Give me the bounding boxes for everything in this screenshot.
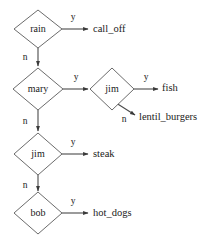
edge-label-jim1-no: n xyxy=(23,180,28,190)
leaf-node-hot-dogs: hot_dogs xyxy=(93,207,132,218)
edge-jim1-yes: y xyxy=(62,137,88,154)
decision-node-rain[interactable]: rain xyxy=(14,10,62,48)
edge-bob-yes: y xyxy=(62,196,88,213)
edge-label-rain-yes: y xyxy=(71,12,76,22)
decision-node-jim[interactable]: jim xyxy=(14,133,62,175)
decision-node-label-jim-mary-branch: jim xyxy=(104,83,119,94)
leaf-node-call-off: call_off xyxy=(93,23,126,34)
decision-node-label-mary: mary xyxy=(28,83,49,94)
decision-node-bob[interactable]: bob xyxy=(14,192,62,234)
edge-label-bob-yes: y xyxy=(71,196,76,206)
edge-rain-yes: y xyxy=(62,12,88,29)
edge-rain-no: n xyxy=(23,48,38,66)
edge-label-jim2-yes: y xyxy=(144,72,149,82)
edge-label-jim1-yes: y xyxy=(71,137,76,147)
edge-jim1-no: n xyxy=(23,175,38,191)
leaf-node-lentil-burgers: lentil_burgers xyxy=(139,111,197,122)
decision-node-label-bob: bob xyxy=(31,207,46,218)
leaf-node-steak: steak xyxy=(93,148,115,159)
decision-tree-diagram: y n y n y n y xyxy=(0,0,215,238)
decision-node-mary[interactable]: mary xyxy=(13,68,63,110)
edge-label-jim2-no: n xyxy=(122,114,127,124)
leaf-node-fish: fish xyxy=(162,82,179,93)
decision-node-label-jim: jim xyxy=(30,148,45,159)
edge-mary-yes: y xyxy=(63,72,88,89)
edge-label-mary-no: n xyxy=(23,116,28,126)
decision-node-label-rain: rain xyxy=(30,23,46,34)
decision-tree-canvas: y n y n y n y xyxy=(0,0,215,238)
decision-node-jim-mary-branch[interactable]: jim xyxy=(90,68,134,110)
edge-label-rain-no: n xyxy=(23,52,28,62)
edge-mary-no: n xyxy=(23,110,38,131)
edge-jim2-yes: y xyxy=(134,72,158,89)
edge-label-mary-yes: y xyxy=(74,72,79,82)
